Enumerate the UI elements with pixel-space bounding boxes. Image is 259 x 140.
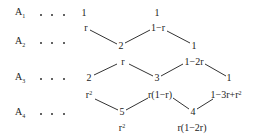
weight-1-minus-3r-plus-r-squared: 1−3r+r2: [211, 90, 242, 100]
node-a3-left: 2: [87, 73, 92, 83]
weight-1-minus-r: 1−r: [151, 23, 165, 33]
edge: [125, 30, 150, 43]
weight-r-1-minus-r: r(1−r): [148, 90, 172, 100]
weight-r-1-minus-2r: r(1−2r): [178, 123, 207, 133]
node-a2-right: 1: [192, 41, 197, 51]
weight-exponent: 2: [238, 90, 241, 96]
weight-r-squared-bottom: r2: [119, 123, 125, 133]
weight-r-mid: r: [121, 57, 124, 67]
weight-base: 1−3r+r: [211, 89, 239, 100]
edge: [197, 99, 213, 109]
edge: [90, 30, 117, 44]
node-a4-right: 4: [191, 107, 196, 117]
weight-r-top: r: [84, 23, 87, 33]
weight-exponent: 2: [122, 123, 125, 129]
edge: [173, 98, 189, 109]
edge: [161, 64, 183, 76]
node-a4-left: 5: [120, 107, 125, 117]
edge: [129, 64, 153, 76]
edge: [94, 64, 117, 75]
node-a1-right: 1: [155, 8, 160, 18]
diagram-edges: [0, 0, 259, 140]
edge: [167, 31, 190, 43]
weight-r-squared: r2: [86, 90, 92, 100]
weight-exponent: 2: [89, 90, 92, 96]
edge: [126, 98, 148, 110]
edge: [205, 64, 226, 76]
weight-1-minus-2r: 1−2r: [185, 57, 204, 67]
edge: [95, 99, 118, 110]
node-a3-right: 1: [227, 73, 232, 83]
node-a1-left: 1: [82, 8, 87, 18]
node-a3-mid: 3: [155, 73, 160, 83]
node-a2-left: 2: [119, 41, 124, 51]
